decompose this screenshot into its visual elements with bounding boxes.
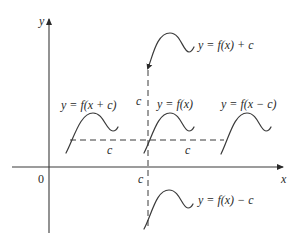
x-axis-label: x [281,173,286,185]
origin-label: 0 [38,173,44,185]
shift-label-left: c [107,144,112,156]
diagram-canvas [0,0,304,250]
label-f-x-minus-c: y = f(x − c) [221,98,277,110]
shift-label-up: c [136,95,141,107]
y-axis-label: y [39,15,44,27]
label-f-x-minus-const: y = f(x) − c [198,194,254,206]
curve-f-x-minus-const [144,190,193,229]
label-f-x: y = f(x) [157,98,193,110]
curve-f-x-plus-const [148,33,194,68]
label-f-x-plus-const: y = f(x) + c [198,39,254,51]
curve-f-x-minus-c [221,113,271,154]
label-f-x-plus-c: y = f(x + c) [61,99,117,111]
shift-label-right: c [185,144,190,156]
function-shift-diagram: y x 0 c c c c y = f(x + c) y = f(x) y = … [0,0,304,250]
shift-label-down: c [138,173,143,185]
